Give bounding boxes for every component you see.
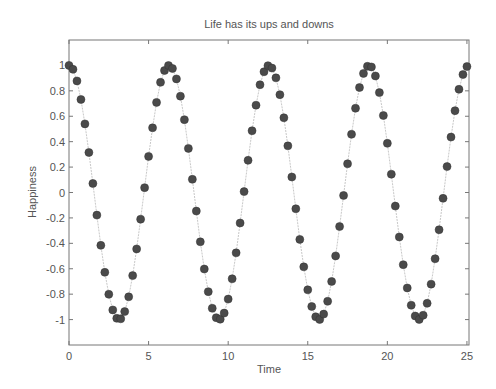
data-point — [387, 170, 395, 178]
data-point — [367, 63, 375, 71]
x-tick-label: 20 — [381, 350, 393, 362]
data-point — [69, 65, 77, 73]
data-point — [200, 265, 208, 273]
data-point — [125, 293, 133, 301]
x-tick-label: 25 — [461, 350, 473, 362]
chart-title: Life has its ups and downs — [204, 18, 334, 30]
data-point — [336, 223, 344, 231]
y-tick-label: 0.2 — [50, 161, 65, 173]
data-point — [180, 116, 188, 124]
x-tick-label: 0 — [66, 350, 72, 362]
data-point — [192, 207, 200, 215]
data-point — [451, 107, 459, 115]
data-point — [240, 188, 248, 196]
data-point — [168, 64, 176, 72]
data-point — [427, 280, 435, 288]
y-tick-label: -0.8 — [46, 288, 65, 300]
data-point — [324, 297, 332, 305]
data-point — [332, 252, 340, 260]
data-point — [232, 249, 240, 257]
y-axis-label: Happiness — [26, 166, 38, 218]
data-point — [407, 301, 415, 309]
data-point — [308, 302, 316, 310]
chart: Life has its ups and downs 051015202510.… — [0, 0, 496, 389]
data-point — [344, 160, 352, 168]
data-point — [85, 148, 93, 156]
data-point — [455, 85, 463, 93]
data-point — [89, 179, 97, 187]
data-point — [292, 205, 300, 213]
y-tick-label: -1 — [55, 314, 65, 326]
data-point — [272, 74, 280, 82]
data-point — [236, 219, 244, 227]
data-point — [157, 78, 165, 86]
data-point — [383, 139, 391, 147]
data-point — [443, 163, 451, 171]
data-point — [348, 130, 356, 138]
data-point — [375, 89, 383, 97]
data-point — [97, 241, 105, 249]
data-point — [172, 75, 180, 83]
y-tick-label: 1 — [59, 59, 65, 71]
data-point — [93, 211, 101, 219]
data-point — [439, 194, 447, 202]
data-point — [355, 84, 363, 92]
data-point — [145, 152, 153, 160]
data-point — [109, 306, 117, 314]
data-point — [276, 91, 284, 99]
data-point — [153, 98, 161, 106]
data-point — [121, 308, 129, 316]
y-tick-label: 0.8 — [50, 85, 65, 97]
data-point — [105, 290, 113, 298]
data-point — [435, 226, 443, 234]
data-point — [371, 72, 379, 80]
data-point — [117, 315, 125, 323]
data-point — [256, 81, 264, 89]
data-point — [304, 286, 312, 294]
data-point — [176, 92, 184, 100]
data-point — [320, 310, 328, 318]
data-point — [149, 124, 157, 132]
data-point — [463, 63, 471, 71]
x-tick-label: 5 — [146, 350, 152, 362]
data-point — [133, 245, 141, 253]
data-point — [208, 304, 216, 312]
data-point — [300, 263, 308, 271]
y-tick-label: 0.6 — [50, 110, 65, 122]
data-point — [296, 235, 304, 243]
data-point — [379, 111, 387, 119]
data-point — [399, 261, 407, 269]
data-point — [141, 184, 149, 192]
data-point — [340, 191, 348, 199]
data-point — [352, 104, 360, 112]
data-point — [196, 238, 204, 246]
data-point — [328, 277, 336, 285]
data-point — [81, 120, 89, 128]
data-point — [248, 127, 256, 135]
data-point — [73, 77, 81, 85]
data-point — [224, 295, 232, 303]
data-point — [280, 114, 288, 122]
data-point — [288, 173, 296, 181]
data-point — [188, 175, 196, 183]
data-point — [447, 133, 455, 141]
data-point — [459, 71, 467, 79]
y-tick-label: -0.2 — [46, 212, 65, 224]
data-point — [423, 299, 431, 307]
y-tick-label: 0 — [59, 187, 65, 199]
data-point — [359, 69, 367, 77]
data-point — [284, 142, 292, 150]
x-tick-label: 15 — [302, 350, 314, 362]
data-point — [403, 284, 411, 292]
data-point — [431, 255, 439, 263]
data-point — [228, 275, 236, 283]
data-point — [137, 215, 145, 223]
data-point — [244, 156, 252, 164]
data-point — [252, 101, 260, 109]
y-tick-label: -0.6 — [46, 263, 65, 275]
data-point — [268, 64, 276, 72]
data-point — [101, 268, 109, 276]
data-point — [419, 311, 427, 319]
data-point — [391, 202, 399, 210]
y-tick-label: 0.4 — [50, 136, 65, 148]
